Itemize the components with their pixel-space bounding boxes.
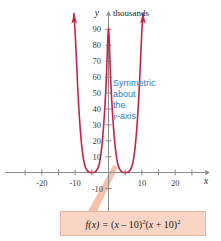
- annotation-line-3: the: [113, 100, 126, 110]
- y-axis-unit-label: thousands: [113, 8, 149, 18]
- formula-f2-exp: 2: [177, 218, 180, 225]
- x-tick-label: 20: [171, 178, 180, 188]
- annotation-line-1: Symmetric: [113, 78, 156, 88]
- figure-container: 90 80 70 60 50 40 30 20 10 -10 -20 -10 1…: [0, 0, 221, 241]
- annotation-line-2: about: [113, 89, 136, 99]
- y-tick-label: 20: [93, 136, 102, 146]
- formula-f1-op: – 10): [119, 219, 142, 231]
- symmetry-annotation: Symmetric about the y-axis: [112, 78, 156, 121]
- y-tick-label: 90: [93, 24, 102, 34]
- formula-callout: f(x)=(x – 10)2(x + 10)2: [61, 212, 206, 236]
- y-tick-label: 30: [93, 120, 102, 130]
- annotation-line-4: y-axis: [112, 111, 137, 121]
- y-tick-label: 40: [93, 104, 102, 114]
- axes-group: [5, 14, 207, 234]
- graph-canvas: 90 80 70 60 50 40 30 20 10 -10 -20 -10 1…: [0, 0, 221, 241]
- x-tick-label: 10: [138, 178, 147, 188]
- annotation-axis-rest: -axis: [117, 111, 137, 121]
- x-tick-label: -20: [36, 178, 47, 188]
- y-tick-label: 50: [93, 88, 102, 98]
- x-tick-label: -10: [69, 178, 80, 188]
- formula-equals: =: [102, 219, 108, 230]
- x-axis-name: x: [203, 176, 209, 186]
- formula-f2-op: + 10): [153, 219, 177, 231]
- y-tick-label: 80: [93, 40, 102, 50]
- y-tick-label: 10: [93, 152, 102, 162]
- y-tick-label: 60: [93, 72, 102, 82]
- y-tick-label: 70: [93, 56, 102, 66]
- y-tick-label: -10: [92, 184, 103, 194]
- formula-fn-arg: (x): [88, 219, 100, 231]
- y-axis-name: y: [94, 8, 100, 18]
